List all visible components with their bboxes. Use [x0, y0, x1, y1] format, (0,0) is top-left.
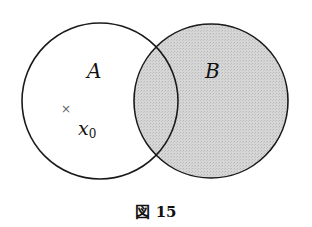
- venn-diagram-figure: A B × x0 図 15: [0, 0, 312, 227]
- point-label: x0: [78, 119, 96, 140]
- venn-diagram: [0, 0, 312, 227]
- figure-caption: 図 15: [0, 205, 312, 220]
- point-label-subscript: 0: [89, 127, 97, 141]
- set-b-label: B: [205, 61, 220, 81]
- point-label-base: x: [78, 117, 89, 139]
- point-marker-icon: ×: [61, 103, 71, 115]
- set-a-label: A: [87, 61, 101, 81]
